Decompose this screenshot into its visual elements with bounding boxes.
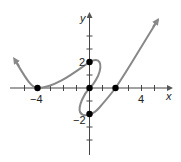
y-axis-label: y [79, 12, 87, 24]
y-tick-label-neg2: −2 [73, 114, 86, 126]
y-tick-label-2: 2 [79, 56, 85, 68]
x-tick-label-4: 4 [138, 93, 144, 105]
graph: −4 4 2 −2 x y [0, 0, 181, 162]
x-axis-label: x [165, 90, 172, 102]
x-tick-label-neg4: −4 [30, 93, 43, 105]
